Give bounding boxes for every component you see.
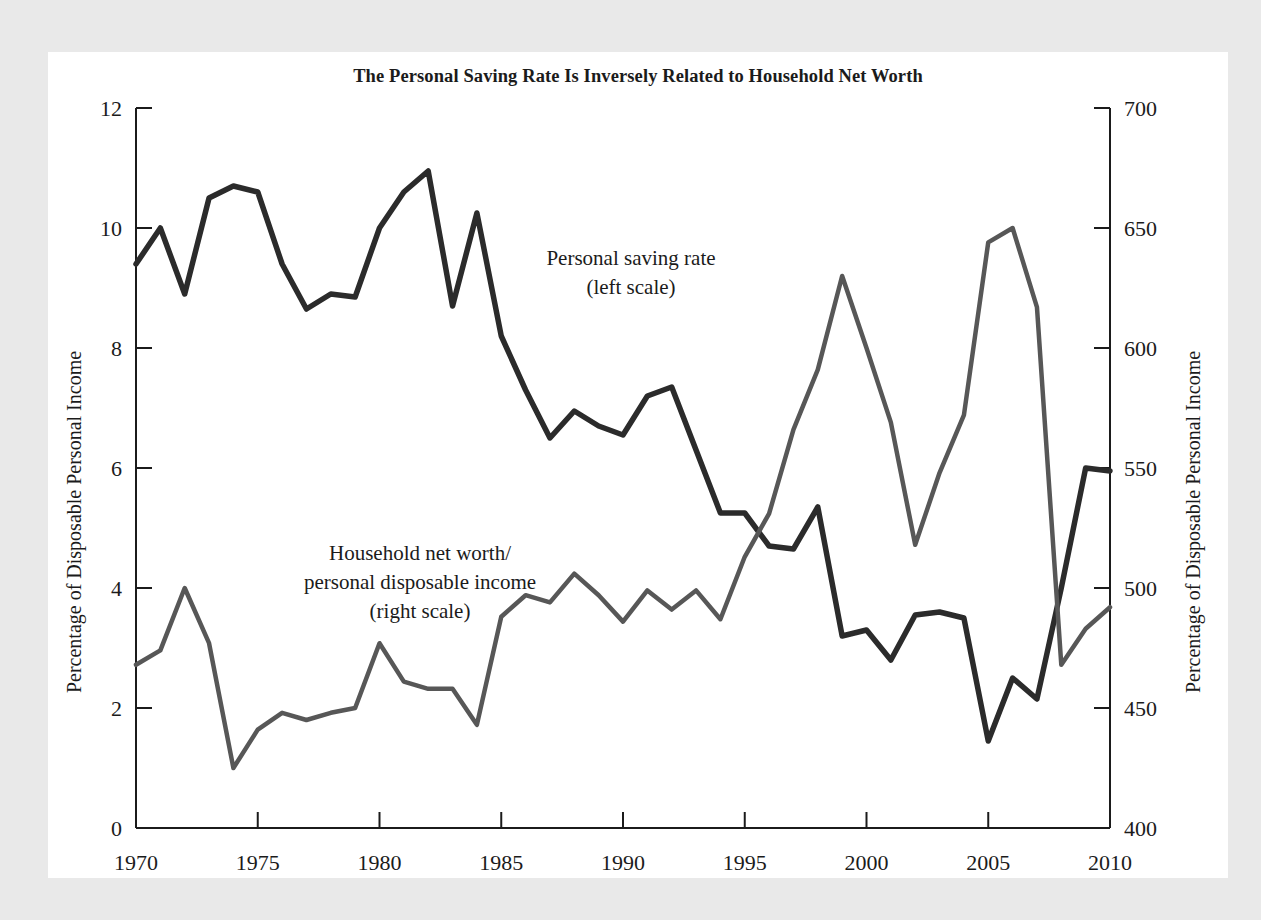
annotation-networth-line1: Household net worth/ <box>329 541 511 565</box>
y-axis-right-tick-label: 600 <box>1124 336 1157 361</box>
chart-card: The Personal Saving Rate Is Inversely Re… <box>48 52 1228 878</box>
chart-page: The Personal Saving Rate Is Inversely Re… <box>0 0 1261 920</box>
axis-lines <box>136 108 1110 828</box>
y-axis-right-tick-label: 700 <box>1124 96 1157 121</box>
y-axis-left-tick-label: 12 <box>100 96 122 121</box>
y-axis-left-tick-label: 2 <box>111 696 122 721</box>
annotation-household-net-worth: Household net worth/ personal disposable… <box>304 541 536 623</box>
x-axis-ticks: 197019751980198519901995200020052010 <box>114 812 1132 875</box>
y-axis-left-tick-label: 0 <box>111 816 122 841</box>
annotation-saving-line1: Personal saving rate <box>546 246 715 270</box>
annotation-networth-line3: (right scale) <box>370 599 471 623</box>
x-axis-tick-label: 1985 <box>479 850 523 875</box>
x-axis-tick-label: 1975 <box>236 850 280 875</box>
x-axis-tick-label: 1990 <box>601 850 645 875</box>
y-axis-left-tick-label: 10 <box>100 216 122 241</box>
annotation-personal-saving-rate: Personal saving rate (left scale) <box>546 246 715 299</box>
y-axis-right-tick-label: 450 <box>1124 696 1157 721</box>
x-axis-tick-label: 2010 <box>1088 850 1132 875</box>
y-axis-right-tick-label: 500 <box>1124 576 1157 601</box>
series-household-net-worth <box>136 228 1110 768</box>
y-axis-left-tick-label: 6 <box>111 456 122 481</box>
y-axis-right-tick-label: 650 <box>1124 216 1157 241</box>
x-axis-tick-label: 2000 <box>845 850 889 875</box>
y-axis-right-tick-label: 550 <box>1124 456 1157 481</box>
x-axis-tick-label: 1980 <box>358 850 402 875</box>
x-axis-tick-label: 1970 <box>114 850 158 875</box>
y-axis-right-tick-label: 400 <box>1124 816 1157 841</box>
y-axis-right-title: Percentage of Disposable Personal Income <box>1182 351 1205 693</box>
y-axis-left-tick-label: 8 <box>111 336 122 361</box>
x-axis-tick-label: 1995 <box>723 850 767 875</box>
line-chart-plot: 024681012 400450500550600650700 19701975… <box>48 52 1228 878</box>
y-axis-left-tick-label: 4 <box>111 576 122 601</box>
y-axis-left-title: Percentage of Disposable Personal Income <box>63 351 86 693</box>
annotation-saving-line2: (left scale) <box>586 275 675 299</box>
x-axis-tick-label: 2005 <box>966 850 1010 875</box>
annotation-networth-line2: personal disposable income <box>304 570 536 594</box>
y-axis-left-ticks: 024681012 <box>100 96 152 841</box>
